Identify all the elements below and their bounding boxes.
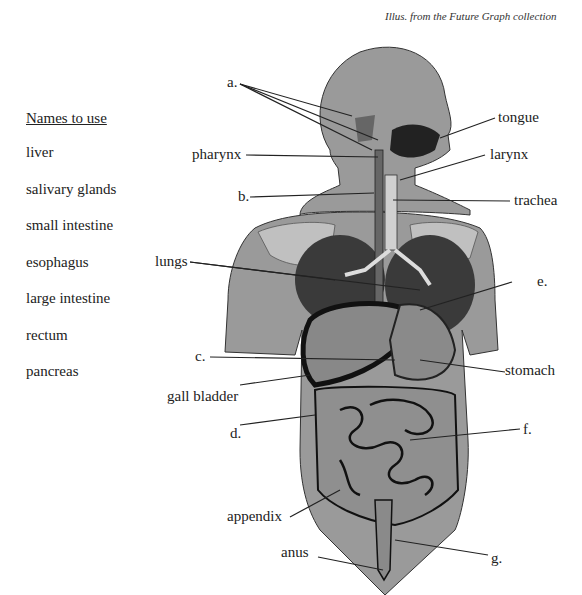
label-trachea: trachea bbox=[514, 192, 557, 209]
label-anus: anus bbox=[281, 544, 309, 561]
esophagus bbox=[375, 150, 383, 310]
label-pharynx: pharynx bbox=[192, 146, 241, 163]
label-f: f. bbox=[523, 421, 532, 438]
label-a: a. bbox=[227, 74, 237, 91]
label-tongue: tongue bbox=[498, 109, 539, 126]
digestive-system-illustration bbox=[0, 0, 582, 595]
label-lungs: lungs bbox=[155, 253, 188, 270]
label-d: d. bbox=[230, 425, 241, 442]
trachea bbox=[385, 175, 397, 250]
label-c: c. bbox=[195, 348, 205, 365]
rectum bbox=[375, 500, 392, 580]
label-stomach: stomach bbox=[505, 362, 555, 379]
label-e: e. bbox=[537, 273, 547, 290]
label-b: b. bbox=[238, 188, 249, 205]
label-larynx: larynx bbox=[490, 146, 528, 163]
label-g: g. bbox=[491, 550, 502, 567]
label-gall-bladder: gall bladder bbox=[167, 388, 238, 405]
label-appendix: appendix bbox=[227, 508, 282, 525]
